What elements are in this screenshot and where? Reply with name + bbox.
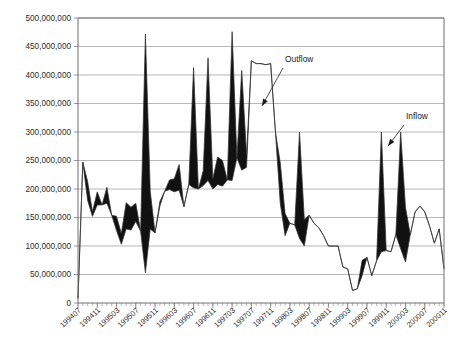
y-tick-label: 100,000,000 xyxy=(25,242,71,251)
y-tick-label: 300,000,000 xyxy=(25,128,71,137)
y-tick-label: 200,000,000 xyxy=(25,185,71,194)
y-tick-label: 400,000,000 xyxy=(25,71,71,80)
flow-chart-container: 050,000,000100,000,000150,000,000200,000… xyxy=(0,0,459,357)
y-tick-label: 500,000,000 xyxy=(25,14,71,23)
y-tick-label: 150,000,000 xyxy=(25,213,71,222)
inflow-outflow-area-chart: 050,000,000100,000,000150,000,000200,000… xyxy=(0,0,459,357)
y-tick-label: 250,000,000 xyxy=(25,156,71,165)
annotation-label-outflow: Outflow xyxy=(285,54,314,64)
y-tick-label: 0 xyxy=(66,299,71,308)
y-tick-label: 450,000,000 xyxy=(25,42,71,51)
y-tick-label: 350,000,000 xyxy=(25,99,71,108)
annotation-label-inflow: Inflow xyxy=(406,111,429,121)
y-tick-label: 50,000,000 xyxy=(30,270,71,279)
